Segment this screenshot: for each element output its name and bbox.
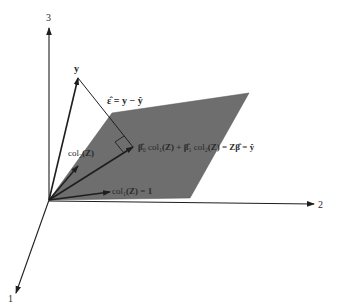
axis-2 [49,201,314,204]
axis-1 [16,200,49,293]
y-label: y [74,63,79,74]
col2-label: col2(Z) [68,148,94,159]
regression-geometry-diagram: 3 2 1 y ε̂ = y − ŷ β̂0 col1(Z) + β̂1 col… [0,0,337,305]
projection-equation: β̂0 col1(Z) + β̂1 col2(Z) = Zβ̂ = ŷ [138,142,255,153]
axis-2-label: 2 [318,199,323,210]
col1-label: col1(Z) = 1 [112,186,153,197]
residual-equation: ε̂ = y − ŷ [107,95,143,106]
residual-rhs: = y − ŷ [111,95,142,106]
axis-1-label: 1 [8,293,13,304]
axis-3-label: 3 [46,12,51,23]
